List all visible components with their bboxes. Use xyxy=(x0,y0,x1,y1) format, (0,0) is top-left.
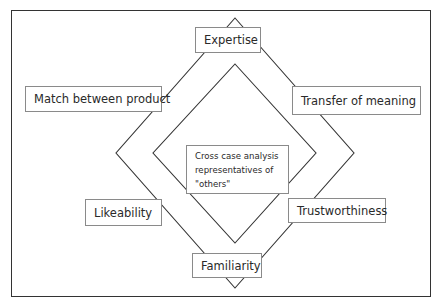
center-line-1: Cross case analysis xyxy=(195,149,279,163)
node-match-between-product: Match between product xyxy=(25,86,162,112)
node-expertise-label: Expertise xyxy=(204,33,258,47)
node-familiarity: Familiarity xyxy=(192,253,262,278)
node-cross-case-analysis: Cross case analysis representatives of "… xyxy=(186,145,289,194)
node-trustworthiness-label: Trustworthiness xyxy=(297,204,387,218)
node-expertise: Expertise xyxy=(195,27,261,53)
center-line-3: "others" xyxy=(195,177,230,191)
node-match-label: Match between product xyxy=(34,92,170,106)
node-transfer-label: Transfer of meaning xyxy=(301,94,416,108)
node-likeability-label: Likeability xyxy=(94,206,152,220)
center-line-2: representatives of xyxy=(195,163,273,177)
node-transfer-of-meaning: Transfer of meaning xyxy=(292,86,421,115)
node-familiarity-label: Familiarity xyxy=(201,259,261,273)
node-likeability: Likeability xyxy=(85,199,162,226)
node-trustworthiness: Trustworthiness xyxy=(288,198,386,223)
